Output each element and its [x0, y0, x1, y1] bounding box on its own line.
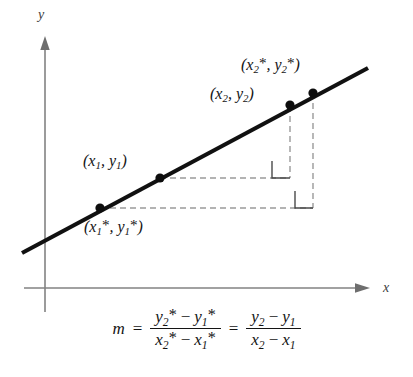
- label-point-x1star-y1star: (x1*, y1*): [84, 219, 143, 235]
- sub-index: 1: [290, 316, 296, 329]
- formula-lhs-m: m: [111, 319, 125, 339]
- var-y: y: [236, 85, 243, 102]
- x-axis-label: x: [383, 281, 389, 295]
- construction-outer-group: [100, 93, 313, 208]
- sub-index: 2: [259, 339, 265, 352]
- slope-formula: m = y2*−y1* x2*−x1* = y2−y1 x2−x1: [0, 306, 413, 351]
- star-mark: *: [208, 329, 216, 346]
- paren-close: ): [138, 218, 143, 235]
- sub-index: 2: [163, 339, 169, 352]
- star-mark: *: [287, 54, 295, 71]
- label-point-x2-y2: (x2, y2): [210, 86, 254, 102]
- sub-index: 2: [163, 316, 169, 329]
- star-mark: *: [169, 306, 177, 323]
- formula-fraction-plain: y2−y1 x2−x1: [246, 306, 300, 351]
- paren-close: ): [295, 56, 300, 73]
- point-x1-y1: [155, 173, 164, 182]
- sub-index: 2: [259, 316, 265, 329]
- minus-sign: −: [265, 330, 283, 349]
- sub-index: 1: [95, 159, 100, 171]
- inner-right-angle-marker: [272, 161, 290, 178]
- fraction-numerator: y2−y1: [246, 306, 300, 328]
- outer-right-angle-marker: [295, 191, 313, 208]
- paren-close: ): [248, 85, 253, 102]
- sub-index: 2: [222, 92, 227, 104]
- formula-equals-2: =: [222, 319, 246, 339]
- axes-group: [24, 36, 370, 312]
- var-y: y: [155, 307, 163, 326]
- label-point-x2star-y2star: (x2*, y2*): [241, 57, 300, 73]
- comma: ,: [101, 152, 109, 169]
- minus-sign: −: [177, 307, 195, 326]
- var-y: y: [251, 307, 259, 326]
- star-mark: *: [102, 216, 110, 233]
- slope-diagram-figure: y x (x2*, y2*) (x2, y2) (x1, y1) (x1*, y…: [0, 0, 413, 377]
- point-x1star-y1star: [95, 203, 104, 212]
- y-axis-label: y: [38, 8, 44, 22]
- comma: ,: [228, 85, 236, 102]
- formula-fraction-starred: y2*−y1* x2*−x1*: [150, 306, 220, 351]
- y-axis-arrowhead: [40, 36, 49, 50]
- minus-sign: −: [265, 307, 283, 326]
- star-mark: *: [130, 216, 138, 233]
- x-axis-arrowhead: [355, 283, 370, 293]
- var-y: y: [282, 307, 290, 326]
- formula-equals-1: =: [126, 319, 150, 339]
- sub-index: 1: [202, 316, 208, 329]
- var-x: x: [251, 330, 259, 349]
- fraction-denominator: x2*−x1*: [150, 329, 220, 351]
- var-y: y: [194, 307, 202, 326]
- sub-index: 1: [290, 339, 296, 352]
- star-mark: *: [208, 306, 216, 323]
- paren-close: ): [121, 152, 126, 169]
- sub-index: 1: [116, 159, 121, 171]
- point-x2-y2: [285, 100, 294, 109]
- var-y: y: [117, 218, 124, 235]
- var-x: x: [194, 330, 202, 349]
- var-y: y: [274, 56, 281, 73]
- point-x2star-y2star: [308, 88, 317, 97]
- fraction-denominator: x2−x1: [246, 329, 300, 351]
- var-y: y: [109, 152, 116, 169]
- var-x: x: [155, 330, 163, 349]
- var-x: x: [282, 330, 290, 349]
- label-point-x1-y1: (x1, y1): [83, 153, 127, 169]
- star-mark: *: [259, 54, 267, 71]
- sub-index: 1: [202, 339, 208, 352]
- fraction-numerator: y2*−y1*: [150, 306, 220, 328]
- minus-sign: −: [177, 330, 195, 349]
- sub-index: 2: [243, 92, 248, 104]
- star-mark: *: [169, 329, 177, 346]
